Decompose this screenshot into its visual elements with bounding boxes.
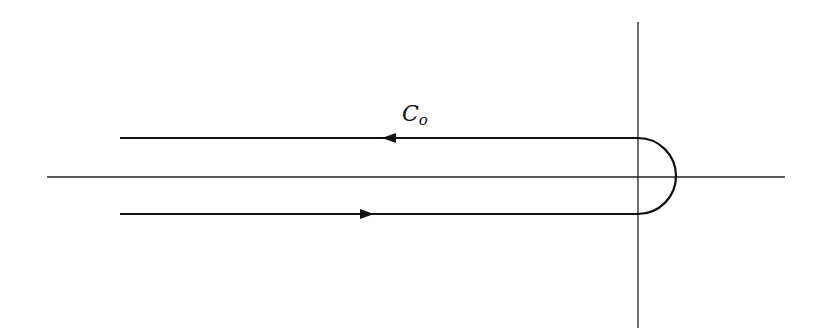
- contour-path: [120, 138, 676, 214]
- diagram-canvas: [0, 0, 825, 334]
- arrow-left-icon: [382, 133, 396, 143]
- contour-label: Co: [402, 103, 428, 128]
- arrow-right-icon: [360, 209, 374, 219]
- hankel-contour-diagram: Co: [0, 0, 825, 334]
- contour-label-subscript: o: [419, 111, 428, 129]
- contour-label-main: C: [402, 101, 419, 126]
